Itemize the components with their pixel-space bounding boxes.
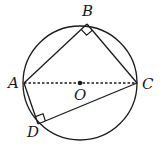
center-point-o bbox=[78, 81, 83, 86]
segment-da bbox=[24, 83, 38, 124]
segment-cd bbox=[38, 83, 137, 124]
label-b: B bbox=[81, 2, 93, 20]
label-o: O bbox=[74, 86, 86, 104]
segment-ab bbox=[24, 24, 87, 83]
label-a: A bbox=[6, 74, 19, 92]
right-angle-marker-b bbox=[81, 29, 92, 35]
label-c: C bbox=[142, 75, 154, 93]
label-d: D bbox=[26, 123, 39, 141]
geometry-diagram: B A C O D bbox=[0, 0, 167, 151]
